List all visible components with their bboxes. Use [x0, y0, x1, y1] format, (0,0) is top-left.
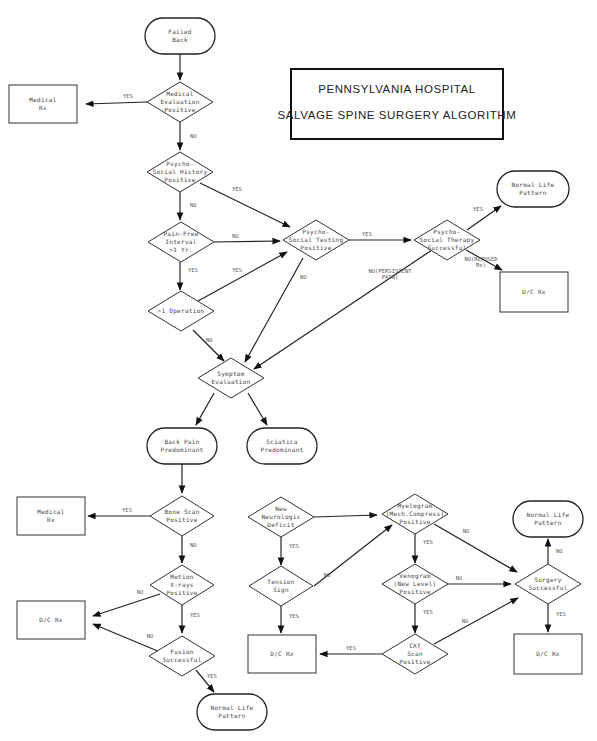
node-label: Social Testing	[289, 236, 344, 244]
node-label: Back Pain	[164, 438, 199, 445]
title-line-1: PENNSYLVANIA HOSPITAL	[318, 83, 476, 95]
node-label: (New Level)	[393, 580, 436, 587]
node-label: Positive	[399, 518, 430, 525]
node-label: Pattern	[534, 519, 561, 526]
edge-label: PAIN)	[382, 274, 399, 280]
edge-label: YES	[188, 267, 198, 273]
node-label: Deficit	[267, 521, 294, 528]
edge-label: YES	[473, 206, 483, 212]
node-normal-life-2: Normal LifePattern	[197, 694, 267, 730]
node-label: D/C Rx	[39, 616, 63, 623]
node-label: Normal Life	[511, 181, 554, 188]
node-label: Tension	[267, 578, 294, 585]
node-bone-scan: Bone ScanPositive	[150, 496, 214, 536]
node-label: Bone Scan	[164, 508, 199, 515]
edge-tension_sign-to-dc_rx_3	[434, 524, 517, 572]
node-surgery: SurgerySuccessful	[515, 564, 581, 604]
title-line-2: SALVAGE SPINE SURGERY ALGORITHM	[278, 109, 517, 121]
edge-label: YES	[190, 612, 200, 618]
node-back-pain: Back PainPredominant	[147, 428, 217, 464]
node-label: Pattern	[519, 189, 546, 196]
node-label: Fusion	[170, 648, 194, 655]
edge-label: NO	[462, 618, 469, 624]
node-normal-life-1: Normal LifePattern	[497, 171, 569, 207]
node-label: Back	[172, 36, 188, 43]
node-label: Normal Life	[210, 704, 253, 711]
node-label: Positive	[166, 589, 197, 596]
node-label: Successful	[427, 244, 466, 251]
node-psychosocial-therapy: Psycho-Social TherapySuccessful	[414, 220, 480, 260]
edge-label: YES	[423, 539, 433, 545]
edge-label: NO	[456, 575, 463, 581]
node-label: Normal Life	[526, 511, 569, 518]
node-label: Positive	[399, 588, 430, 595]
title-frame	[291, 69, 503, 139]
node-label: Rx	[47, 516, 55, 523]
edge-label: YES	[289, 613, 299, 619]
node-label: (Mech.Compress)	[386, 510, 445, 518]
edge-label: YES	[123, 93, 133, 99]
node-normal-life-3: Normal LifePattern	[513, 501, 583, 537]
node-label: Pain-Free	[163, 230, 198, 237]
node-label: D/C Rx	[522, 288, 546, 295]
node-label: Positive	[164, 176, 195, 183]
node-label: Evaluation	[160, 98, 199, 105]
node-label: D/C Rx	[270, 650, 294, 657]
node-label: Positive	[399, 658, 430, 665]
node-psychosocial-testing: Psycho-Social TestingPositive	[283, 220, 349, 260]
node-label: Myelogram	[397, 502, 432, 510]
edge-gt1_operation-to-psychosocial_testing	[198, 252, 287, 301]
node-label: Sciatica	[266, 438, 297, 445]
edge-label: YES	[362, 231, 372, 237]
node-label: Medical	[29, 96, 56, 103]
flowchart: PENNSYLVANIA HOSPITAL SALVAGE SPINE SURG…	[0, 0, 597, 741]
edge-label: YES	[556, 611, 566, 617]
node-symptom-eval: SymptomEvaluation	[198, 358, 264, 398]
node-cat-scan: CATScanPositive	[382, 634, 448, 674]
node-label: Successful	[528, 584, 567, 591]
node-label: >1 Yr.	[169, 246, 192, 253]
node-tension-sign: TensionSign	[249, 566, 313, 606]
edge-label: NO	[137, 589, 144, 595]
edge-psychosocial_history-to-psychosocial_testing	[200, 183, 290, 227]
node-label: Medical	[37, 508, 64, 515]
node-label: D/C Rx	[536, 650, 560, 657]
node-psychosocial-history: Psycho-Social HistoryPositive	[147, 152, 213, 192]
node-label: Neurologic	[261, 513, 300, 521]
node-label: Successful	[162, 656, 201, 663]
edge-label: NO	[190, 542, 197, 548]
node-dc-rx-1: D/C Rx	[500, 272, 568, 312]
node-label: Rx	[39, 104, 47, 111]
edge-psychosocial_testing-to-symptom_eval	[245, 258, 303, 362]
edge-label: YES	[207, 673, 217, 679]
node-label: Positive	[164, 106, 195, 113]
node-label: Positive	[300, 244, 331, 251]
node-label: CAT	[409, 642, 421, 649]
node-label: Surgery	[534, 576, 561, 584]
node-label: Evaluation	[211, 378, 250, 385]
edge-label: YES	[122, 507, 132, 513]
title-box: PENNSYLVANIA HOSPITAL SALVAGE SPINE SURG…	[278, 69, 517, 139]
node-medical-eval: MedicalEvaluationPositive	[147, 82, 213, 122]
edge-pain_free-to-psychosocial_testing	[214, 241, 280, 242]
edge-venogram-to-cat_scan	[434, 598, 518, 644]
node-label: New	[275, 505, 287, 512]
node-label: Venogram	[399, 572, 430, 580]
node-label: Social History	[153, 168, 208, 176]
node-label: Failed	[168, 28, 192, 35]
node-label: Interval	[165, 238, 196, 245]
node-label: Motion	[170, 573, 194, 580]
edge-label: NO	[206, 337, 213, 343]
node-label: Scan	[407, 650, 423, 657]
node-label: Psycho-	[433, 228, 460, 236]
edge-label: NO	[324, 572, 331, 578]
node-label: X-rays	[170, 581, 194, 589]
node-label: >1 Operation	[158, 307, 205, 315]
node-sciatica: SciaticaPredominant	[247, 428, 317, 464]
edge-label: NO	[190, 202, 197, 208]
node-medical-rx-1: MedicalRx	[9, 85, 77, 123]
node-label: Pattern	[218, 712, 245, 719]
edge-label: NO	[463, 528, 470, 534]
edge-medical_eval-to-medical_rx_1	[86, 102, 147, 104]
edge-label: YES	[346, 645, 356, 651]
